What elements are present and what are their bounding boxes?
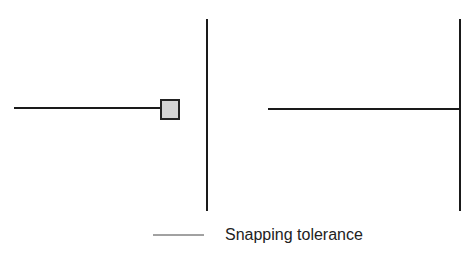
snapping-tolerance-box	[161, 100, 179, 119]
snapping-diagram	[0, 0, 472, 260]
left-panel	[14, 19, 207, 211]
legend-label: Snapping tolerance	[225, 225, 363, 245]
right-panel	[268, 19, 460, 211]
